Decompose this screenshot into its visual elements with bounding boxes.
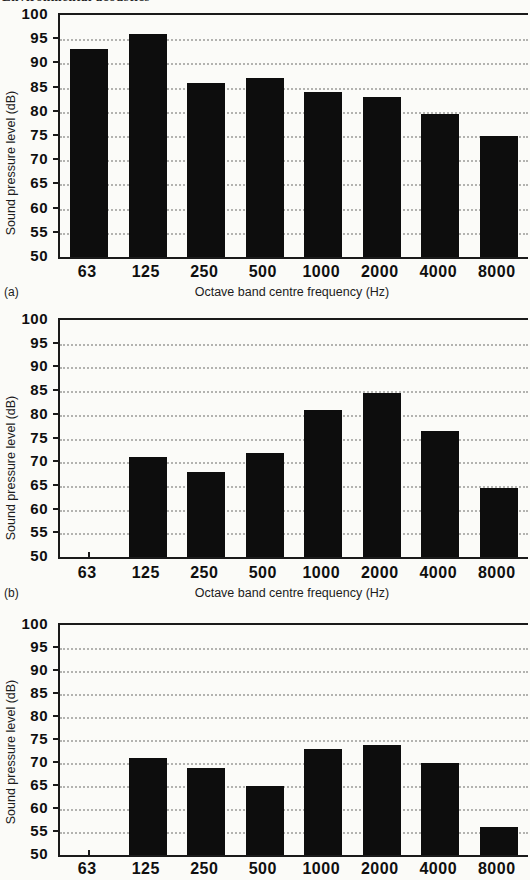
gridline-85 bbox=[60, 391, 528, 393]
bar-250hz bbox=[187, 83, 225, 257]
chart-c: Sound pressure level (dB) 50556065707580… bbox=[0, 623, 530, 880]
bar-500hz bbox=[246, 453, 284, 557]
x-axis-labels: 631252505001000200040008000 bbox=[58, 263, 526, 281]
y-tick-label-60: 60 bbox=[8, 501, 48, 517]
y-tick-label-90: 90 bbox=[8, 358, 48, 374]
x-label-63: 63 bbox=[78, 263, 97, 281]
bar-63hz bbox=[70, 49, 108, 257]
y-tick-label-60: 60 bbox=[8, 800, 48, 816]
y-tick-label-100: 100 bbox=[8, 616, 48, 632]
bar-4000hz bbox=[421, 763, 459, 855]
chart-b: Sound pressure level (dB) 50556065707580… bbox=[0, 318, 530, 618]
y-tick-label-90: 90 bbox=[8, 54, 48, 70]
plot-area bbox=[58, 623, 528, 857]
y-tick-label-70: 70 bbox=[8, 754, 48, 770]
y-tick-label-65: 65 bbox=[8, 175, 48, 191]
bar-250hz bbox=[187, 768, 225, 855]
bar-250hz bbox=[187, 472, 225, 557]
x-label-125: 125 bbox=[132, 860, 160, 878]
y-axis-ticks: 50556065707580859095100 bbox=[0, 318, 58, 618]
x-tick-63 bbox=[88, 850, 90, 856]
gridline-95 bbox=[60, 344, 528, 346]
x-label-500: 500 bbox=[249, 860, 277, 878]
caption-row: (a) Octave band centre frequency (Hz) bbox=[0, 285, 530, 301]
y-tick-label-50: 50 bbox=[8, 248, 48, 264]
caption-row: (b) Octave band centre frequency (Hz) bbox=[0, 586, 530, 602]
y-tick-label-95: 95 bbox=[8, 335, 48, 351]
x-label-125: 125 bbox=[132, 564, 160, 582]
y-tick-label-95: 95 bbox=[8, 30, 48, 46]
gridline-75 bbox=[60, 740, 528, 742]
y-tick-label-90: 90 bbox=[8, 662, 48, 678]
plot-area bbox=[58, 318, 528, 559]
x-axis-labels: 631252505001000200040008000 bbox=[58, 860, 526, 878]
x-label-500: 500 bbox=[249, 263, 277, 281]
y-tick-label-65: 65 bbox=[8, 777, 48, 793]
x-axis-labels: 631252505001000200040008000 bbox=[58, 564, 526, 582]
y-axis-ticks: 50556065707580859095100 bbox=[0, 13, 58, 313]
chart-a: Sound pressure level (dB) 50556065707580… bbox=[0, 13, 530, 313]
y-tick-label-70: 70 bbox=[8, 453, 48, 469]
x-label-1000: 1000 bbox=[302, 263, 340, 281]
y-tick-label-75: 75 bbox=[8, 127, 48, 143]
y-tick-label-55: 55 bbox=[8, 823, 48, 839]
x-axis-title: Octave band centre frequency (Hz) bbox=[58, 586, 526, 600]
x-label-2000: 2000 bbox=[361, 564, 399, 582]
gridline-85 bbox=[60, 694, 528, 696]
x-tick-63 bbox=[88, 552, 90, 558]
bar-125hz bbox=[129, 457, 167, 557]
y-tick-label-50: 50 bbox=[8, 846, 48, 862]
bar-1000hz bbox=[304, 410, 342, 557]
chart-caption: (a) bbox=[4, 285, 19, 299]
x-label-250: 250 bbox=[190, 564, 218, 582]
bar-8000hz bbox=[480, 827, 518, 855]
y-tick-label-85: 85 bbox=[8, 685, 48, 701]
bar-500hz bbox=[246, 786, 284, 855]
x-label-125: 125 bbox=[132, 263, 160, 281]
plot-area bbox=[58, 13, 528, 259]
y-tick-label-55: 55 bbox=[8, 524, 48, 540]
bar-2000hz bbox=[363, 393, 401, 557]
y-tick-label-60: 60 bbox=[8, 200, 48, 216]
x-label-1000: 1000 bbox=[302, 564, 340, 582]
x-label-4000: 4000 bbox=[419, 564, 457, 582]
gridline-80 bbox=[60, 717, 528, 719]
y-tick-label-70: 70 bbox=[8, 151, 48, 167]
x-label-8000: 8000 bbox=[478, 860, 516, 878]
bar-2000hz bbox=[363, 745, 401, 855]
x-label-4000: 4000 bbox=[419, 263, 457, 281]
bar-125hz bbox=[129, 34, 167, 257]
bar-1000hz bbox=[304, 749, 342, 855]
gridline-90 bbox=[60, 367, 528, 369]
x-label-1000: 1000 bbox=[302, 860, 340, 878]
chart-caption: (b) bbox=[4, 586, 19, 600]
y-tick-label-100: 100 bbox=[8, 6, 48, 22]
bar-500hz bbox=[246, 78, 284, 257]
y-tick-label-75: 75 bbox=[8, 430, 48, 446]
bar-4000hz bbox=[421, 114, 459, 257]
x-label-63: 63 bbox=[78, 860, 97, 878]
bar-125hz bbox=[129, 758, 167, 855]
x-label-4000: 4000 bbox=[419, 860, 457, 878]
x-axis-title: Octave band centre frequency (Hz) bbox=[58, 285, 526, 299]
y-tick-label-85: 85 bbox=[8, 79, 48, 95]
x-label-250: 250 bbox=[190, 263, 218, 281]
y-tick-label-85: 85 bbox=[8, 382, 48, 398]
y-tick-label-100: 100 bbox=[8, 311, 48, 327]
x-label-63: 63 bbox=[78, 564, 97, 582]
bar-8000hz bbox=[480, 136, 518, 257]
y-tick-label-65: 65 bbox=[8, 477, 48, 493]
y-tick-label-80: 80 bbox=[8, 406, 48, 422]
x-label-8000: 8000 bbox=[478, 564, 516, 582]
y-tick-label-80: 80 bbox=[8, 103, 48, 119]
y-tick-label-55: 55 bbox=[8, 224, 48, 240]
gridline-95 bbox=[60, 648, 528, 650]
x-label-500: 500 bbox=[249, 564, 277, 582]
gridline-90 bbox=[60, 671, 528, 673]
x-label-2000: 2000 bbox=[361, 263, 399, 281]
bar-2000hz bbox=[363, 97, 401, 257]
y-tick-label-95: 95 bbox=[8, 639, 48, 655]
y-tick-label-50: 50 bbox=[8, 548, 48, 564]
y-tick-label-80: 80 bbox=[8, 708, 48, 724]
x-label-250: 250 bbox=[190, 860, 218, 878]
